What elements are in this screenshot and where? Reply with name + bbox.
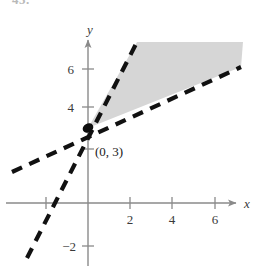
solution-region-fill — [88, 42, 243, 128]
vertex-point-label: (0, 3) — [95, 144, 123, 159]
coordinate-plot: x y 2 4 6 6 4 −2 (0, 3) — [0, 0, 261, 272]
y-axis-label: y — [85, 22, 93, 37]
x-tick-label-6: 6 — [212, 212, 219, 227]
solution-region — [88, 42, 243, 128]
y-tick-label-6: 6 — [68, 62, 75, 77]
x-tick-label-4: 4 — [169, 212, 176, 227]
y-tick-label-negative-2: −2 — [62, 239, 76, 254]
y-tick-label-4: 4 — [68, 100, 75, 115]
figure-container: 45. — [0, 0, 261, 272]
x-axis-label: x — [243, 196, 250, 211]
x-tick-label-2: 2 — [127, 212, 134, 227]
